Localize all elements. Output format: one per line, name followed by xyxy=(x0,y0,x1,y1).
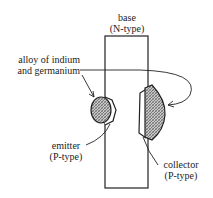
base-label-line2: (N-type) xyxy=(104,23,150,34)
emitter-alloy-dot xyxy=(91,97,116,125)
alloy-arrow-emitter xyxy=(82,75,94,97)
emitter-label: emitter (P-type) xyxy=(44,140,88,162)
alloy-label-line1: alloy of indium xyxy=(4,54,80,65)
emitter-label-line2: (P-type) xyxy=(44,151,88,162)
collector-label-line2: (P-type) xyxy=(156,170,206,181)
base-label: base (N-type) xyxy=(104,12,150,34)
alloy-label-line2: and germanium xyxy=(4,65,80,76)
alloy-label: alloy of indium and germanium xyxy=(4,54,80,76)
collector-label: collector (P-type) xyxy=(156,159,206,181)
collector-label-line1: collector xyxy=(156,159,206,170)
base-label-line1: base xyxy=(104,12,150,23)
emitter-label-line1: emitter xyxy=(44,140,88,151)
collector-alloy-dot xyxy=(139,85,165,140)
emitter-leader-line xyxy=(86,124,110,145)
